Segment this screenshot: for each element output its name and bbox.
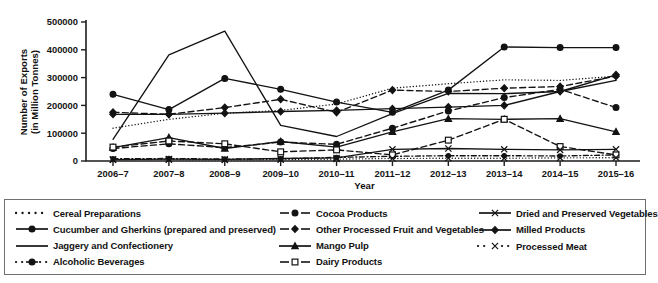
legend-column-3: Dried and Preserved VegetablesMilled Pro… bbox=[476, 205, 646, 270]
plot-svg: 01000002000003000004000005000002006–7200… bbox=[0, 0, 652, 196]
legend-item-label: Other Processed Fruit and Vegetables bbox=[314, 224, 484, 235]
series-group bbox=[110, 31, 619, 163]
y-tick-label: 0 bbox=[73, 155, 78, 166]
data-point-filled-circle bbox=[334, 99, 340, 105]
x-tick-label: 2011–12 bbox=[374, 168, 410, 179]
series-line bbox=[113, 119, 616, 149]
legend-item-label: Alcoholic Beverages bbox=[51, 256, 145, 267]
data-point-filled-diamond bbox=[292, 226, 298, 233]
legend-item: Milled Products bbox=[476, 222, 646, 239]
x-tick-label: 2006–7 bbox=[97, 168, 128, 179]
legend: Cereal PreparationsCucumber and Gherkins… bbox=[4, 199, 646, 275]
data-point-filled-circle bbox=[29, 226, 35, 232]
legend-item-label: Processed Meat bbox=[514, 241, 587, 252]
data-point-filled-circle bbox=[292, 210, 298, 216]
legend-item: Alcoholic Beverages bbox=[13, 254, 276, 270]
data-point-filled-triangle bbox=[557, 115, 563, 121]
legend-swatch-solid-cross bbox=[476, 206, 514, 220]
x-tick-label: 2015–16 bbox=[598, 168, 635, 179]
legend-swatch-solid-diamond bbox=[476, 223, 514, 237]
x-tick-label: 2008–9 bbox=[209, 168, 240, 179]
legend-item: Mango Pulp bbox=[276, 238, 476, 254]
data-point-filled-triangle bbox=[277, 138, 283, 144]
data-point-filled-circle bbox=[557, 45, 563, 51]
series-line bbox=[113, 155, 616, 159]
legend-item-label: Dried and Preserved Vegetables bbox=[514, 208, 658, 219]
data-point-filled-triangle bbox=[613, 129, 619, 135]
legend-item: Dried and Preserved Vegetables bbox=[476, 205, 646, 222]
data-point-open-square bbox=[292, 259, 298, 265]
legend-swatch-solid-nomarker bbox=[13, 239, 51, 253]
y-tick-label: 100000 bbox=[47, 128, 78, 139]
y-tick-label: 300000 bbox=[47, 72, 78, 83]
legend-item: Cucumber and Gherkins (prepared and pres… bbox=[13, 221, 276, 237]
legend-item-label: Cucumber and Gherkins (prepared and pres… bbox=[51, 224, 276, 235]
data-point-filled-diamond bbox=[277, 108, 283, 115]
legend-item: Other Processed Fruit and Vegetables bbox=[276, 221, 476, 237]
legend-item-label: Jaggery and Confectionery bbox=[51, 240, 173, 251]
data-point-filled-diamond bbox=[501, 102, 507, 109]
legend-item-label: Dairy Products bbox=[314, 256, 382, 267]
data-point-open-square bbox=[166, 138, 172, 144]
series-line bbox=[113, 76, 616, 128]
series-line bbox=[113, 47, 616, 112]
legend-swatch-dotted-nomarker bbox=[13, 206, 51, 220]
y-tick-label: 200000 bbox=[47, 100, 78, 111]
y-tick-label: 400000 bbox=[47, 44, 78, 55]
data-point-cross-x bbox=[492, 243, 498, 249]
data-point-filled-circle bbox=[110, 91, 116, 97]
x-tick-label: 2013–14 bbox=[486, 168, 523, 179]
data-point-filled-circle bbox=[613, 105, 619, 111]
data-point-filled-circle bbox=[29, 259, 35, 265]
legend-column-1: Cereal PreparationsCucumber and Gherkins… bbox=[13, 205, 276, 270]
legend-item-label: Mango Pulp bbox=[314, 240, 369, 251]
series-cucumber-and-gherkins-prepared-and-preserved bbox=[110, 44, 619, 115]
x-tick-label: 2007–8 bbox=[153, 168, 184, 179]
x-tick-label: 2012–13 bbox=[430, 168, 467, 179]
legend-item-label: Cereal Preparations bbox=[51, 208, 141, 219]
data-point-filled-diamond bbox=[492, 226, 498, 233]
series-line bbox=[113, 149, 616, 160]
series-milled-products bbox=[110, 71, 619, 117]
data-point-filled-circle bbox=[222, 76, 228, 82]
data-point-filled-diamond bbox=[277, 96, 283, 103]
axes-group: 01000002000003000004000005000002006–7200… bbox=[47, 16, 640, 178]
data-point-filled-circle bbox=[613, 45, 619, 51]
y-axis-title-line1: Number of Exports bbox=[18, 49, 29, 135]
data-point-open-square bbox=[278, 149, 284, 155]
legend-swatch-dotted-cross bbox=[476, 239, 514, 253]
series-line bbox=[113, 75, 616, 115]
data-point-open-square bbox=[445, 137, 451, 143]
series-mango-pulp bbox=[110, 115, 619, 151]
legend-item-label: Cocoa Products bbox=[314, 208, 387, 219]
data-point-open-square bbox=[110, 144, 116, 150]
series-cereal-preparations bbox=[113, 76, 616, 128]
plot-area: 01000002000003000004000005000002006–7200… bbox=[0, 0, 652, 196]
data-point-filled-diamond bbox=[501, 85, 507, 92]
data-point-filled-circle bbox=[501, 95, 507, 101]
series-line bbox=[113, 76, 616, 114]
legend-swatch-dashed-opensquare bbox=[276, 255, 314, 269]
data-point-filled-circle bbox=[278, 86, 284, 92]
legend-item: Jaggery and Confectionery bbox=[13, 238, 276, 254]
legend-item-label: Milled Products bbox=[514, 224, 585, 235]
y-axis-title-line2: (in Million Tonnes) bbox=[29, 50, 40, 134]
legend-item: Processed Meat bbox=[476, 238, 646, 255]
legend-item: Dairy Products bbox=[276, 254, 476, 270]
legend-swatch-dashdot-circle bbox=[13, 255, 51, 269]
legend-swatch-dashed-diamond bbox=[276, 222, 314, 236]
legend-swatch-dashed-circle bbox=[276, 206, 314, 220]
x-tick-label: 2014–15 bbox=[542, 168, 579, 179]
data-point-open-square bbox=[222, 141, 228, 147]
data-point-filled-diamond bbox=[222, 110, 228, 117]
data-point-filled-triangle bbox=[292, 242, 298, 248]
x-axis-title: Year bbox=[354, 180, 375, 191]
x-tick-label: 2009–10 bbox=[262, 168, 299, 179]
legend-swatch-solid-circle bbox=[13, 222, 51, 236]
legend-column-2: Cocoa ProductsOther Processed Fruit and … bbox=[276, 205, 476, 270]
y-tick-label: 500000 bbox=[47, 16, 78, 27]
x-tick-label: 2010–11 bbox=[319, 168, 355, 179]
legend-item: Cereal Preparations bbox=[13, 205, 276, 221]
data-point-open-square bbox=[501, 116, 507, 122]
